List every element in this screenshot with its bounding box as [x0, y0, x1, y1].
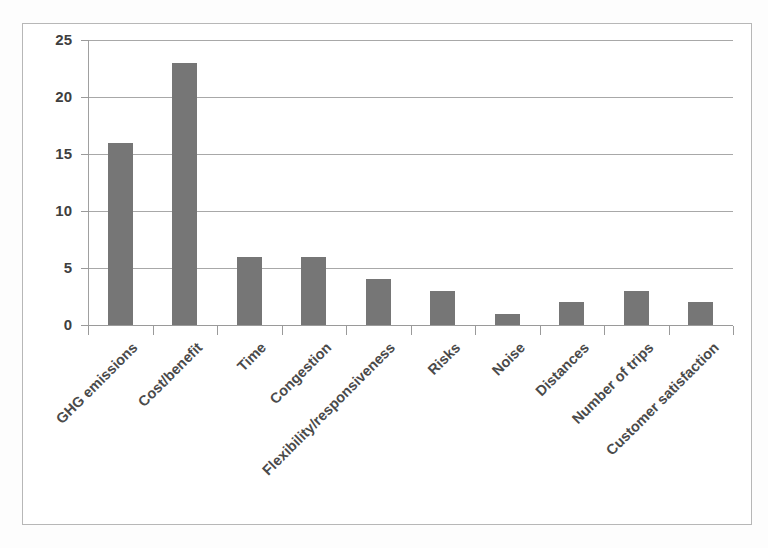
x-tick-mark-4 [346, 326, 347, 335]
bar [301, 257, 326, 325]
x-tick-mark-10 [733, 326, 734, 335]
bar-chart-figure: 0510152025 GHG emissionsCost/benefitTime… [0, 0, 768, 548]
bar [108, 143, 133, 325]
plot-area [88, 40, 733, 325]
bar [172, 63, 197, 325]
x-tick-mark-8 [604, 326, 605, 335]
y-tick-label-0: 0 [12, 317, 72, 332]
x-tick-mark-3 [282, 326, 283, 335]
bar [688, 302, 713, 325]
bar [495, 314, 520, 325]
x-tick-mark-0 [88, 326, 89, 335]
y-tick-label-15: 15 [12, 146, 72, 161]
x-tick-mark-7 [540, 326, 541, 335]
bar [430, 291, 455, 325]
y-tick-label-5: 5 [12, 260, 72, 275]
x-tick-mark-2 [217, 326, 218, 335]
x-tick-mark-5 [411, 326, 412, 335]
x-tick-mark-6 [475, 326, 476, 335]
x-tick-mark-1 [153, 326, 154, 335]
bar [366, 279, 391, 325]
bar [237, 257, 262, 325]
y-tick-label-20: 20 [12, 89, 72, 104]
bar [559, 302, 584, 325]
bar [624, 291, 649, 325]
y-tick-label-25: 25 [12, 32, 72, 47]
x-tick-mark-9 [669, 326, 670, 335]
y-tick-label-10: 10 [12, 203, 72, 218]
